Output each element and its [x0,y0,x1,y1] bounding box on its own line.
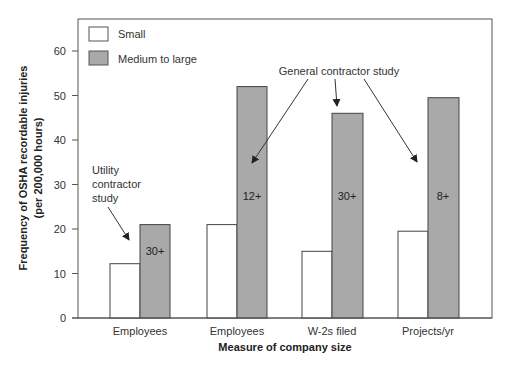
y-axis-title-line1: Frequency of OSHA recordable injuries [17,66,29,271]
bar-label: 8+ [437,190,450,202]
annotation-text-line: study [92,192,119,204]
arrow-icon [108,207,129,240]
annotation-text: General contractor study [279,65,400,77]
bar-medium-large [237,87,267,318]
y-tick-label: 10 [54,268,66,280]
bar-small [110,264,140,318]
bar-group-projects-yr: 8+ [398,98,459,318]
y-axis-title-line2: (per 200,000 hours) [32,117,44,218]
bar-small [207,225,237,318]
legend-swatch-small [89,27,108,41]
y-tick-label: 60 [54,45,66,57]
bar-medium-large [332,113,363,318]
x-axis-title: Measure of company size [218,341,351,353]
legend: Small Medium to large [89,27,197,65]
bar-group-employees-utility: 30+ [110,225,170,318]
x-category-label: Projects/yr [402,325,454,337]
y-axis: 0 10 20 30 40 50 60 [54,45,78,324]
x-category-label: W-2s filed [308,325,357,337]
arrow-icon [335,79,337,106]
bar-chart: 0 10 20 30 40 50 60 Frequency of OSHA re… [0,0,506,365]
legend-label-medium-large: Medium to large [118,53,197,65]
bar-small [398,231,428,318]
bar-group-employees-general: 12+ [207,87,267,318]
bar-label: 12+ [243,190,262,202]
bar-label: 30+ [338,190,357,202]
annotation-text-line: contractor [92,178,141,190]
x-category-label: Employees [210,325,265,337]
bar-medium-large [140,225,170,318]
annotation-utility-contractor: Utility contractor study [92,164,141,240]
bar-medium-large [428,98,459,318]
y-tick-label: 0 [60,312,66,324]
legend-swatch-medium-large [89,51,108,65]
y-tick-label: 20 [54,223,66,235]
legend-label-small: Small [118,28,146,40]
bar-label: 30+ [146,245,165,257]
x-category-label: Employees [113,325,168,337]
annotation-text-line: Utility [92,164,119,176]
bar-group-w2s-filed: 30+ [302,113,363,318]
y-tick-label: 40 [54,134,66,146]
arrow-icon [364,79,417,162]
y-tick-label: 30 [54,179,66,191]
y-tick-label: 50 [54,90,66,102]
bar-small [302,251,332,318]
